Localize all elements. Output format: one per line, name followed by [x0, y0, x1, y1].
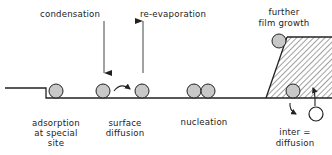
- label-inter: inter =: [279, 127, 310, 137]
- label-surface: surface: [108, 118, 141, 128]
- label-nucleation: nucleation: [180, 117, 227, 127]
- film-inner-atom: [286, 84, 300, 98]
- adsorbed-atom: [49, 84, 63, 98]
- label-at-special: at special: [34, 128, 77, 138]
- label-further: further: [268, 7, 299, 17]
- label-adsorption: adsorption: [32, 118, 80, 128]
- label-inter-diffusion: diffusion: [276, 138, 315, 148]
- diffusing-atom-start: [96, 84, 110, 98]
- interdiffusing-atom: [309, 107, 323, 121]
- label-re-evaporation: re-evaporation: [140, 9, 206, 19]
- label-site: site: [48, 138, 64, 148]
- film-growth-diagram: condensation re-evaporation further film…: [0, 0, 332, 155]
- label-diffusion: diffusion: [106, 128, 145, 138]
- diffusing-atom-end: [135, 84, 149, 98]
- surface-diffusion-arrow-icon: [114, 86, 130, 91]
- nucleation-atom-2: [201, 84, 215, 98]
- nucleation-atom-1: [187, 84, 201, 98]
- label-condensation: condensation: [40, 9, 100, 19]
- inter-diffusion-down-arrow-icon: [290, 103, 296, 114]
- label-film-growth: film growth: [258, 18, 309, 28]
- film-edge-atom: [272, 34, 286, 48]
